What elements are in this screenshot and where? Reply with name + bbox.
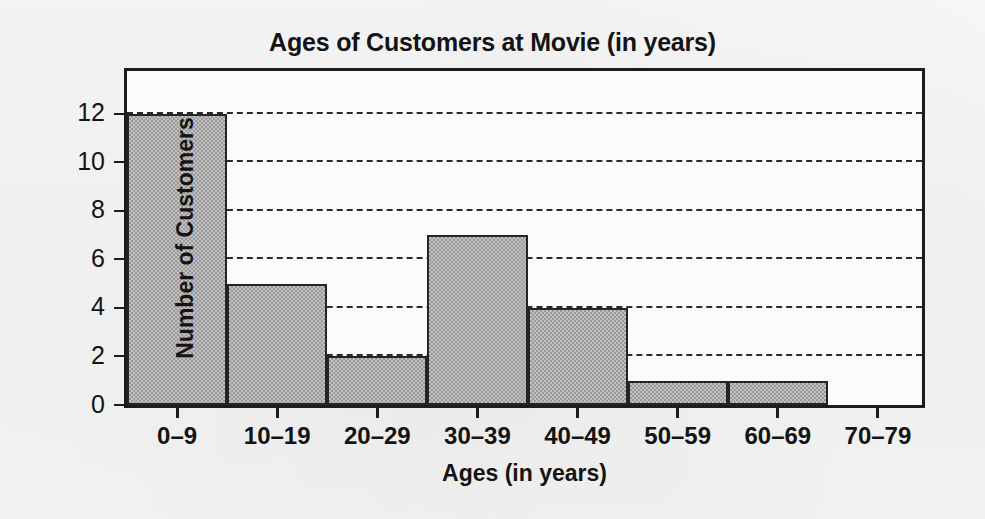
y-axis-tick-mark xyxy=(114,307,127,309)
x-axis-tick-label: 20–29 xyxy=(344,424,411,448)
x-axis-tick-mark xyxy=(576,405,579,418)
y-axis-tick-label: 0 xyxy=(91,392,114,417)
y-axis-tick-label: 8 xyxy=(91,197,114,222)
chart-title: Ages of Customers at Movie (in years) xyxy=(0,28,985,57)
x-axis-tick-mark xyxy=(376,405,379,418)
y-axis-tick-mark xyxy=(114,355,127,357)
plot-inner-region xyxy=(127,71,922,405)
histogram-bar xyxy=(327,356,427,405)
x-axis-title: Ages (in years) xyxy=(127,460,922,487)
y-axis-title: Number of Customers xyxy=(172,117,199,359)
histogram-bar xyxy=(227,284,327,405)
x-axis-tick-mark xyxy=(476,405,479,418)
y-axis-tick-label: 10 xyxy=(77,149,114,174)
y-axis-tick-label: 12 xyxy=(77,100,114,125)
x-axis-tick-mark xyxy=(776,405,779,418)
y-axis-tick-mark xyxy=(114,113,127,115)
y-axis-tick-mark xyxy=(114,404,127,406)
y-axis-tick-mark xyxy=(114,258,127,260)
x-axis-tick-mark xyxy=(676,405,679,418)
x-axis-tick-label: 60–69 xyxy=(744,424,811,448)
x-axis-tick-mark xyxy=(276,405,279,418)
x-axis-tick-label: 10–19 xyxy=(244,424,311,448)
x-axis-tick-label: 50–59 xyxy=(644,424,711,448)
histogram-bar xyxy=(728,381,828,405)
x-axis-tick-label: 40–49 xyxy=(544,424,611,448)
histogram-bar xyxy=(427,235,527,405)
x-axis-tick-label: 70–79 xyxy=(845,424,912,448)
y-axis-tick-label: 4 xyxy=(91,294,114,319)
y-axis-tick-mark xyxy=(114,210,127,212)
bars-layer xyxy=(127,71,922,405)
plot-area: Number of Customers 024681012 0–910–1920… xyxy=(124,68,925,408)
y-axis-tick-mark xyxy=(114,161,127,163)
histogram-bar xyxy=(528,308,628,405)
x-axis-tick-mark xyxy=(876,405,879,418)
histogram-bar xyxy=(628,381,728,405)
x-axis-tick-label: 0–9 xyxy=(157,424,197,448)
y-axis-tick-label: 6 xyxy=(91,246,114,271)
x-axis-tick-mark xyxy=(176,405,179,418)
x-axis-tick-label: 30–39 xyxy=(444,424,511,448)
y-axis-tick-label: 2 xyxy=(91,343,114,368)
histogram-figure: Ages of Customers at Movie (in years) Nu… xyxy=(0,0,985,519)
